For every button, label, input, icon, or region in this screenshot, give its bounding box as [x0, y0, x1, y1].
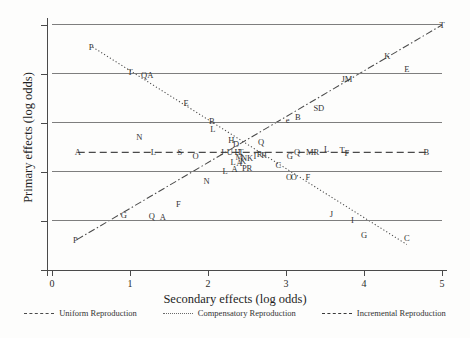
data-point-label: C	[404, 234, 410, 243]
data-point-label: E	[184, 99, 189, 108]
data-point-label: I	[253, 152, 256, 161]
x-tick-mark	[442, 270, 443, 276]
y-axis-label: Primary effects (log odds)	[21, 18, 36, 258]
data-point-label: B	[424, 148, 430, 157]
data-point-label: C	[275, 160, 281, 169]
data-point-label: e	[286, 116, 290, 125]
data-point-label: G	[361, 230, 367, 239]
y-tick-mark	[41, 123, 47, 124]
data-point-label: L	[230, 158, 235, 167]
y-axis-line	[47, 18, 48, 276]
data-point-label: P	[73, 235, 78, 244]
data-point-label: Q	[149, 212, 155, 221]
data-point-label: R	[261, 150, 267, 159]
data-point-label: P	[89, 43, 94, 52]
x-tick-label: 2	[198, 278, 218, 289]
data-point-label: G	[287, 151, 293, 160]
x-axis-label: Secondary effects (log odds)	[0, 292, 470, 307]
data-point-label: PR	[242, 164, 252, 173]
y-tick-mark	[41, 270, 47, 271]
x-tick-label: 1	[120, 278, 140, 289]
x-tick-mark	[208, 270, 209, 276]
data-point-label: T	[238, 148, 243, 157]
data-point-label: SD	[313, 104, 324, 113]
data-point-label: S	[178, 148, 183, 157]
data-point-label: A	[75, 148, 81, 157]
data-point-label: B	[295, 113, 301, 122]
gridline-y5	[52, 24, 442, 25]
data-point-label: Q	[258, 137, 264, 146]
data-point-label: MR	[306, 148, 319, 157]
gridline-y4	[52, 73, 442, 74]
data-point-label: QA	[141, 70, 153, 79]
data-point-label: U	[227, 148, 233, 157]
data-point-label: F	[306, 172, 311, 181]
x-tick-mark	[364, 270, 365, 276]
y-tick-mark	[41, 172, 47, 173]
x-tick-mark	[130, 270, 131, 276]
data-point-label: I	[351, 216, 354, 225]
data-point-label: G	[121, 211, 127, 220]
data-point-label: A	[160, 213, 166, 222]
y-tick-mark	[41, 25, 47, 26]
gridline-y3	[52, 122, 442, 123]
legend-swatch-dash-dot	[24, 313, 54, 314]
legend-item[interactable]: Incremental Reproduction	[322, 308, 446, 318]
legend-label: Incremental Reproduction	[357, 308, 446, 318]
legend-item[interactable]: Compensatory Reproduction	[163, 308, 296, 318]
x-tick-label: 4	[354, 278, 374, 289]
x-tick-label: 0	[42, 278, 62, 289]
legend-label: Compensatory Reproduction	[198, 308, 296, 318]
chart-root: PGQAFNLAKMRQeBSDJMKETPTQAEBLHDUHLANKPRIR…	[0, 0, 470, 338]
data-point-label: N	[136, 132, 142, 141]
data-point-label: J	[220, 148, 223, 157]
data-point-label: O	[192, 152, 198, 161]
data-point-label: T	[439, 21, 444, 30]
data-point-label: Q	[294, 148, 300, 157]
plot-area: PGQAFNLAKMRQeBSDJMKETPTQAEBLHDUHLANKPRIR…	[52, 24, 442, 270]
data-point-label: L	[151, 148, 156, 157]
data-point-label: N	[203, 176, 209, 185]
data-point-label: K	[384, 52, 390, 61]
data-point-label: F	[345, 149, 350, 158]
x-tick-mark	[52, 270, 53, 276]
legend-item[interactable]: Uniform Reproduction	[24, 308, 137, 318]
data-point-label: L	[324, 145, 329, 154]
y-tick-mark	[41, 221, 47, 222]
gridline-y1	[52, 220, 442, 221]
legend-swatch-dotted	[163, 313, 193, 314]
x-axis-line	[47, 270, 447, 271]
legend-swatch-dashed	[322, 313, 352, 314]
x-tick-mark	[286, 270, 287, 276]
chart-legend: Uniform ReproductionCompensatory Reprodu…	[0, 308, 470, 318]
data-point-label: L	[223, 166, 228, 175]
x-tick-label: 3	[276, 278, 296, 289]
data-point-label: L	[210, 124, 215, 133]
data-point-label: JM	[341, 74, 352, 83]
data-point-label: E	[404, 65, 409, 74]
legend-label: Uniform Reproduction	[59, 308, 137, 318]
data-point-label: F	[176, 199, 181, 208]
data-point-label: O	[286, 172, 292, 181]
data-point-label: J	[330, 209, 333, 218]
data-point-label: T	[127, 67, 132, 76]
x-tick-label: 5	[432, 278, 452, 289]
y-tick-mark	[41, 74, 47, 75]
